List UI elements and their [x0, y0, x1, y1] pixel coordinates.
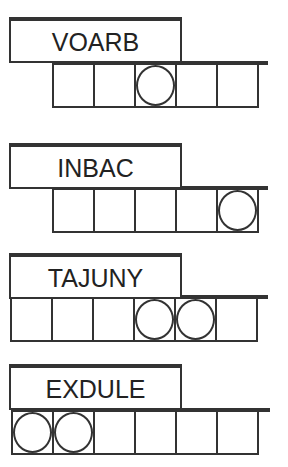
answer-cell-3[interactable]	[92, 297, 135, 342]
answer-cell-5-circled[interactable]	[174, 297, 217, 342]
circle-marker-icon	[54, 412, 93, 453]
answer-cell-2[interactable]	[93, 63, 136, 108]
answer-cell-4-circled[interactable]	[133, 297, 176, 342]
answer-cell-4[interactable]	[134, 410, 177, 455]
answer-cells	[52, 188, 259, 233]
scrambled-word-box: INBAC	[9, 143, 182, 189]
answer-cells	[10, 297, 258, 342]
answer-cell-5[interactable]	[175, 410, 218, 455]
answer-cell-1[interactable]	[52, 188, 95, 233]
answer-cell-1[interactable]	[52, 63, 95, 108]
answer-cell-1-circled[interactable]	[11, 410, 54, 455]
circle-marker-icon	[176, 299, 215, 340]
answer-cell-5[interactable]	[216, 63, 259, 108]
answer-cell-2[interactable]	[51, 297, 94, 342]
answer-cell-5-circled[interactable]	[216, 188, 259, 233]
answer-cell-2[interactable]	[93, 188, 136, 233]
answer-cell-3[interactable]	[93, 410, 136, 455]
scrambled-word-box: VOARB	[9, 17, 182, 63]
answer-cell-4[interactable]	[175, 188, 218, 233]
circle-marker-icon	[135, 299, 174, 340]
scrambled-word-box: EXDULE	[9, 364, 182, 410]
scrambled-word: INBAC	[57, 154, 133, 183]
answer-cells	[52, 63, 259, 108]
circle-marker-icon	[13, 412, 52, 453]
circle-marker-icon	[218, 190, 257, 231]
answer-cell-6[interactable]	[215, 297, 258, 342]
scrambled-word: TAJUNY	[48, 264, 143, 293]
scrambled-word: EXDULE	[45, 375, 145, 404]
answer-cell-4[interactable]	[175, 63, 218, 108]
scrambled-word-box: TAJUNY	[9, 253, 182, 299]
answer-cell-1[interactable]	[10, 297, 53, 342]
answer-cell-3[interactable]	[134, 188, 177, 233]
answer-cell-3-circled[interactable]	[134, 63, 177, 108]
scrambled-word: VOARB	[52, 28, 140, 57]
answer-cell-2-circled[interactable]	[52, 410, 95, 455]
circle-marker-icon	[136, 65, 175, 106]
answer-cell-6[interactable]	[216, 410, 259, 455]
answer-cells	[11, 410, 259, 455]
